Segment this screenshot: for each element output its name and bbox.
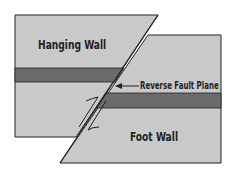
hanging-wall-label: Hanging Wall (38, 37, 106, 52)
fault-plane-label: Reverse Fault Plane (140, 80, 219, 91)
hanging-wall-layer (15, 68, 124, 82)
foot-wall-layer (96, 93, 221, 108)
foot-wall-label: Foot Wall (130, 129, 178, 144)
